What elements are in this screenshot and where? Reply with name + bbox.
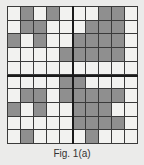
grid-cell-empty — [47, 89, 59, 102]
grid-cell-shaded — [73, 34, 85, 47]
grid-cell-shaded — [60, 48, 72, 61]
grid-cell-shaded — [112, 89, 124, 102]
grid-cell-empty — [73, 130, 85, 143]
grid-cell-shaded — [21, 7, 33, 20]
grid-cell-empty — [112, 130, 124, 143]
grid-cell-empty — [47, 48, 59, 61]
grid-cell-empty — [21, 48, 33, 61]
grid-cell-empty — [112, 75, 124, 88]
grid-cell-empty — [21, 34, 33, 47]
grid-cell-shaded — [99, 7, 111, 20]
grid-cell-empty — [60, 62, 72, 75]
grid-cell-empty — [60, 117, 72, 130]
grid-cell-empty — [112, 103, 124, 116]
grid-cell-empty — [60, 130, 72, 143]
grid-cell-shaded — [73, 103, 85, 116]
grid-cell-shaded — [112, 117, 124, 130]
grid-cell-empty — [125, 89, 137, 102]
grid-cell-shaded — [34, 103, 46, 116]
grid-cell-shaded — [73, 117, 85, 130]
grid-cell-empty — [112, 62, 124, 75]
grid-cell-shaded — [99, 117, 111, 130]
grid-cell-empty — [60, 34, 72, 47]
grid-cell-empty — [21, 62, 33, 75]
grid-cell-shaded — [73, 75, 85, 88]
grid-cell-shaded — [112, 7, 124, 20]
grid-cell-shaded — [112, 48, 124, 61]
horizontal-axis-line — [7, 75, 138, 77]
grid-cell-empty — [47, 75, 59, 88]
grid-cell-empty — [125, 7, 137, 20]
grid-cell-empty — [99, 75, 111, 88]
grid-cell-shaded — [99, 89, 111, 102]
grid-cell-empty — [125, 48, 137, 61]
grid-cell-shaded — [99, 34, 111, 47]
grid-cell-empty — [99, 62, 111, 75]
grid-cell-empty — [8, 62, 20, 75]
grid-cell-empty — [86, 62, 98, 75]
grid-cell-empty — [34, 117, 46, 130]
grid-cell-empty — [34, 48, 46, 61]
figure-caption: Fig. 1(a) — [0, 148, 144, 159]
grid-cell-shaded — [112, 34, 124, 47]
grid-cell-empty — [47, 130, 59, 143]
grid-cell-empty — [86, 75, 98, 88]
grid-cell-empty — [125, 62, 137, 75]
grid-cell-shaded — [21, 130, 33, 143]
grid-cell-empty — [21, 75, 33, 88]
grid-cell-shaded — [86, 117, 98, 130]
grid-cell-shaded — [34, 89, 46, 102]
grid-cell-empty — [60, 7, 72, 20]
grid-cell-shaded — [86, 89, 98, 102]
grid-cell-shaded — [86, 130, 98, 143]
grid-cell-empty — [8, 117, 20, 130]
grid-cell-shaded — [99, 103, 111, 116]
grid-cell-empty — [47, 117, 59, 130]
grid-cell-shaded — [73, 89, 85, 102]
grid-cell-shaded — [21, 89, 33, 102]
grid-cell-empty — [47, 103, 59, 116]
grid-cell-empty — [8, 130, 20, 143]
grid-cell-empty — [8, 7, 20, 20]
grid-cell-shaded — [60, 89, 72, 102]
grid-cell-empty — [8, 21, 20, 34]
grid-cell-empty — [125, 130, 137, 143]
grid-cell-shaded — [60, 75, 72, 88]
grid-cell-empty — [125, 34, 137, 47]
grid-cell-empty — [125, 103, 137, 116]
grid-cell-empty — [34, 7, 46, 20]
grid-cell-empty — [47, 34, 59, 47]
grid-cell-empty — [34, 130, 46, 143]
grid-cell-empty — [86, 7, 98, 20]
grid-cell-empty — [99, 130, 111, 143]
grid-cell-shaded — [86, 103, 98, 116]
grid-cell-empty — [125, 117, 137, 130]
grid-cell-empty — [8, 75, 20, 88]
grid-cell-shaded — [86, 21, 98, 34]
grid-cell-empty — [73, 62, 85, 75]
grid-cell-shaded — [34, 21, 46, 34]
grid-cell-empty — [8, 89, 20, 102]
grid-cell-shaded — [86, 34, 98, 47]
grid-cell-shaded — [47, 7, 59, 20]
grid-cell-shaded — [99, 21, 111, 34]
grid-cell-empty — [73, 7, 85, 20]
grid-cell-shaded — [8, 103, 20, 116]
grid-cell-shaded — [86, 48, 98, 61]
grid-cell-empty — [34, 62, 46, 75]
grid-cell-empty — [34, 75, 46, 88]
grid-cell-empty — [21, 117, 33, 130]
grid-cell-empty — [73, 21, 85, 34]
grid-cell-empty — [47, 62, 59, 75]
grid-cell-shaded — [99, 48, 111, 61]
grid-cell-empty — [60, 21, 72, 34]
grid-cell-empty — [21, 103, 33, 116]
grid-cell-shaded — [73, 48, 85, 61]
grid-cell-shaded — [112, 21, 124, 34]
grid-cell-empty — [47, 21, 59, 34]
grid-cell-empty — [60, 103, 72, 116]
grid-cell-empty — [125, 21, 137, 34]
grid-cell-empty — [125, 75, 137, 88]
grid-cell-shaded — [21, 21, 33, 34]
grid-cell-shaded — [8, 34, 20, 47]
